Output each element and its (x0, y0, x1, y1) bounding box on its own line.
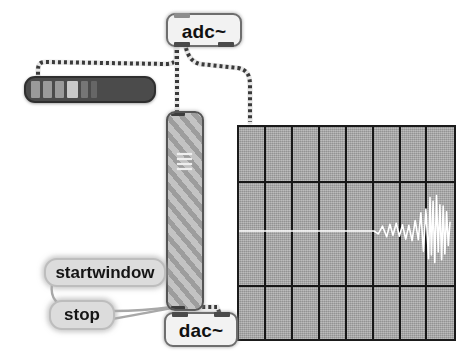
message-box-stop[interactable]: stop (49, 300, 115, 330)
adc-top-nub (174, 13, 190, 18)
meter-segment (55, 81, 64, 98)
dac-inlet-right[interactable] (214, 312, 230, 317)
vertical-striped-subpatch[interactable] (166, 111, 204, 311)
cord-adc-to-hmeter[interactable] (38, 44, 176, 78)
message-box-startwindow[interactable]: startwindow (44, 258, 166, 287)
patch-canvas: adc~ startwindow stop dac~ (0, 0, 473, 357)
waveform-trace (239, 127, 454, 339)
vobj-tick-marks (177, 153, 192, 170)
adc-label: adc~ (182, 22, 227, 41)
dac-inlet-left[interactable] (172, 312, 188, 317)
meter-segment (91, 81, 97, 98)
dac-label: dac~ (179, 321, 224, 340)
object-box-adc[interactable]: adc~ (166, 13, 242, 47)
meter-segment (31, 81, 40, 98)
meter-segment (81, 81, 88, 98)
adc-outlet-right[interactable] (218, 42, 234, 47)
vobj-outlet[interactable] (171, 306, 185, 311)
horizontal-level-meter[interactable] (24, 76, 156, 103)
signal-array-graph[interactable] (237, 125, 456, 341)
stop-label: stop (64, 305, 100, 325)
meter-highlight (67, 81, 78, 98)
startwindow-label: startwindow (55, 263, 154, 283)
meter-segment (43, 81, 52, 98)
vobj-inlet[interactable] (171, 111, 185, 116)
object-box-dac[interactable]: dac~ (164, 312, 238, 347)
adc-outlet-left[interactable] (174, 42, 190, 47)
